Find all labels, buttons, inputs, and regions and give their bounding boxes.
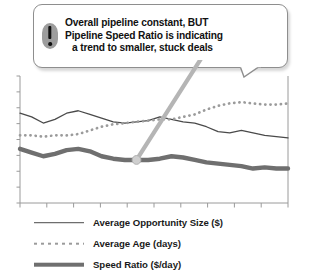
chart-axes xyxy=(17,76,289,208)
annotation-line-1: Overall pipeline constant, BUT xyxy=(65,17,223,30)
annotation-text: Overall pipeline constant, BUT Pipeline … xyxy=(65,17,223,55)
annotation-line-3: a trend to smaller, stuck deals xyxy=(65,42,223,55)
legend-swatch-dotted xyxy=(34,238,84,250)
chart-legend: Average Opportunity Size ($) Average Age… xyxy=(0,212,310,275)
legend-label-opportunity-size: Average Opportunity Size ($) xyxy=(93,217,223,228)
legend-item-opportunity-size: Average Opportunity Size ($) xyxy=(0,212,310,233)
chart-figure: Overall pipeline constant, BUT Pipeline … xyxy=(0,0,310,275)
legend-swatch-solid-thin xyxy=(34,217,84,229)
legend-swatch-solid-thick xyxy=(34,259,84,271)
legend-label-speed-ratio: Speed Ratio ($/day) xyxy=(93,259,181,270)
annotation-line-2: Pipeline Speed Ratio is indicating xyxy=(65,30,223,43)
chart-canvas xyxy=(0,60,310,210)
series-line xyxy=(20,149,288,169)
annotation-callout: Overall pipeline constant, BUT Pipeline … xyxy=(33,4,288,68)
legend-item-speed-ratio: Speed Ratio ($/day) xyxy=(0,254,310,275)
legend-label-average-age: Average Age (days) xyxy=(93,238,181,249)
annotation-pointer xyxy=(132,60,204,164)
legend-item-average-age: Average Age (days) xyxy=(0,233,310,254)
exclamation-icon xyxy=(42,23,58,49)
line-chart xyxy=(0,60,310,210)
